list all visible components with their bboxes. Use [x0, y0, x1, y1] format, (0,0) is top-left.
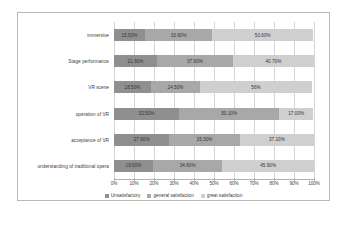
bar-segment: 56% [200, 81, 312, 93]
bar-value-label: 45.90% [260, 163, 276, 168]
axis-tick-label: 90% [289, 181, 298, 186]
gridline [134, 22, 135, 179]
bar-value-label: 37.10% [269, 137, 285, 142]
chart-bar-row: operation of VR32.50%50.10%17.00% [114, 108, 314, 120]
axis-tick-label: 50% [209, 181, 218, 186]
bar-value-label: 15.50% [122, 33, 138, 38]
bar-value-label: 27.60% [134, 137, 150, 142]
bar-value-label: 56% [251, 85, 260, 90]
axis-tick-label: 70% [249, 181, 258, 186]
legend-item[interactable]: Unsatisfactory [105, 193, 141, 198]
plot-area: immersive15.50%33.60%50.60%Stage perform… [18, 13, 329, 200]
category-label: understanding of traditional opera [37, 163, 109, 168]
bar-segment: 35.30% [169, 134, 240, 146]
bar-value-label: 33.60% [171, 33, 187, 38]
bar-value-label: 17.00% [288, 111, 304, 116]
gridline [234, 22, 235, 179]
bar-segment: 24.50% [151, 81, 200, 93]
bar-segment: 18.50% [114, 81, 151, 93]
bar-segment: 32.50% [114, 108, 179, 120]
bar-value-label: 50.60% [255, 33, 271, 38]
bar-segment: 50.10% [179, 108, 279, 120]
gridline [294, 22, 295, 179]
bar-segment: 34.60% [153, 160, 222, 172]
chart-legend: Unsatisfactorygeneral satisfactiongreat … [18, 193, 329, 198]
legend-label: great satisfaction [207, 193, 242, 198]
bar-segment: 27.60% [114, 134, 169, 146]
bar-segment: 15.50% [114, 29, 145, 41]
category-label: Stage performance [68, 59, 109, 64]
bar-value-label: 50.10% [221, 111, 237, 116]
chart-bar-row: understanding of traditional opera19.50%… [114, 160, 314, 172]
bar-segment: 33.60% [145, 29, 212, 41]
legend-label: Unsatisfactory [111, 193, 141, 198]
legend-swatch-icon [147, 194, 151, 198]
axis-tick-label: 60% [229, 181, 238, 186]
category-label: acceptance of VR [71, 137, 109, 142]
axis-tick-label: 40% [189, 181, 198, 186]
bar-value-label: 35.30% [197, 137, 213, 142]
bar-segment: 21.60% [114, 55, 157, 67]
axis-tick-label: 30% [169, 181, 178, 186]
gridline [274, 22, 275, 179]
axis-tick-label: 20% [149, 181, 158, 186]
chart-bar-row: acceptance of VR27.60%35.30%37.10% [114, 134, 314, 146]
gridline [114, 22, 115, 179]
legend-label: general satisfaction [153, 193, 193, 198]
axis-tick-label: 80% [269, 181, 278, 186]
legend-swatch-icon [201, 194, 205, 198]
gridline [174, 22, 175, 179]
bar-segment: 37.90% [157, 55, 233, 67]
gridline [314, 22, 315, 179]
bars-region: immersive15.50%33.60%50.60%Stage perform… [114, 22, 314, 179]
bar-segment: 19.50% [114, 160, 153, 172]
gridline [194, 22, 195, 179]
bar-segment: 50.60% [212, 29, 313, 41]
bar-value-label: 37.90% [187, 59, 203, 64]
legend-item[interactable]: general satisfaction [147, 193, 193, 198]
axis-tick-label: 0% [111, 181, 118, 186]
bar-value-label: 24.50% [168, 85, 184, 90]
bar-value-label: 21.60% [128, 59, 144, 64]
bar-value-label: 19.50% [126, 163, 142, 168]
legend-item[interactable]: great satisfaction [201, 193, 242, 198]
bar-segment: 45.90% [222, 160, 314, 172]
bar-segment: 17.00% [279, 108, 313, 120]
category-label: immersive [87, 33, 109, 38]
bar-segment: 40.70% [233, 55, 314, 67]
chart-bar-row: immersive15.50%33.60%50.60% [114, 29, 314, 41]
category-label: operation of VR [76, 111, 109, 116]
legend-swatch-icon [105, 194, 109, 198]
axis-tick-label: 10% [129, 181, 138, 186]
bar-segment: 37.10% [240, 134, 314, 146]
bar-value-label: 34.60% [180, 163, 196, 168]
gridline [254, 22, 255, 179]
x-axis: 0%10%20%30%40%50%60%70%80%90%100% [114, 181, 314, 191]
bar-value-label: 40.70% [265, 59, 281, 64]
bar-value-label: 18.50% [125, 85, 141, 90]
chart-bar-row: VR scene18.50%24.50%56% [114, 81, 314, 93]
bar-value-label: 32.50% [139, 111, 155, 116]
axis-tick-label: 100% [308, 181, 320, 186]
category-label: VR scene [88, 85, 109, 90]
gridline [154, 22, 155, 179]
gridline [214, 22, 215, 179]
chart-bar-row: Stage performance21.60%37.90%40.70% [114, 55, 314, 67]
chart-container: immersive15.50%33.60%50.60%Stage perform… [17, 12, 330, 201]
